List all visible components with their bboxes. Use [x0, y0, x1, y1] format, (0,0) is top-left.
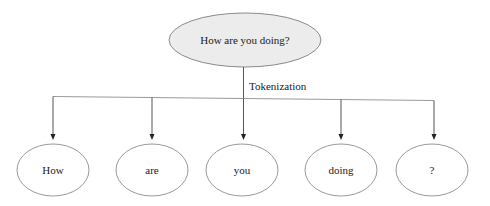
token-node-label: are [145, 164, 159, 176]
arrow-down-icon [150, 134, 155, 140]
diagram-canvas: How are you doing? Tokenization How are [0, 0, 490, 206]
arrow-down-icon [339, 134, 344, 140]
arrow-down-icon [241, 134, 246, 140]
edge-label: Tokenization [249, 80, 307, 92]
token-node-label: ? [430, 164, 435, 176]
token-node: you [206, 144, 278, 196]
token-node: ? [396, 144, 468, 196]
token-node: are [116, 144, 188, 196]
root-node: How are you doing? [169, 13, 321, 67]
token-node-label: How [42, 164, 63, 176]
token-node-label: you [234, 164, 251, 176]
arrow-down-icon [51, 134, 56, 140]
root-node-label: How are you doing? [200, 34, 290, 46]
arrow-down-icon [432, 134, 437, 140]
token-node: How [17, 144, 89, 196]
token-node-label: doing [328, 164, 354, 176]
token-node: doing [305, 144, 377, 196]
tokenization-diagram: How are you doing? Tokenization How are [0, 0, 490, 206]
